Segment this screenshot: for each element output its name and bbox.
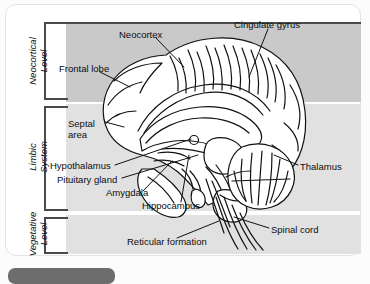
- leader-spinal-cord: [234, 217, 269, 228]
- label-thalamus: Thalamus: [300, 161, 342, 172]
- leader-cingulate-gyrus: [249, 29, 268, 77]
- label-hypothalamus: Hypothalamus: [50, 160, 111, 171]
- label-neocortex: Neocortex: [119, 29, 162, 40]
- label-septal-area-line2: area: [68, 129, 95, 140]
- leader-septal-area: [105, 122, 124, 127]
- label-hippocampus: Hippocampus: [142, 200, 200, 211]
- label-amygdala: Amygdala: [106, 187, 148, 198]
- label-spinal-cord: Spinal cord: [271, 224, 319, 235]
- leader-neocortex: [156, 38, 184, 67]
- label-pituitary-gland: Pituitary gland: [57, 174, 117, 185]
- leader-thalamus: [274, 155, 298, 165]
- leader-hypothalamus: [115, 139, 191, 165]
- label-septal-area-line1: Septal: [68, 118, 95, 129]
- leader-hippocampus: [181, 155, 189, 202]
- label-septal-area: Septal area: [68, 118, 95, 140]
- leader-frontal-lobe: [100, 72, 130, 87]
- leader-lines: [6, 5, 362, 257]
- label-frontal-lobe: Frontal lobe: [59, 63, 109, 74]
- label-cingulate-gyrus: Cingulate gyrus: [234, 19, 300, 30]
- figure-card: Neocortical Level Limbic System Vegetati…: [5, 4, 361, 256]
- label-reticular-formation: Reticular formation: [127, 236, 207, 247]
- bottom-bar: [8, 268, 115, 284]
